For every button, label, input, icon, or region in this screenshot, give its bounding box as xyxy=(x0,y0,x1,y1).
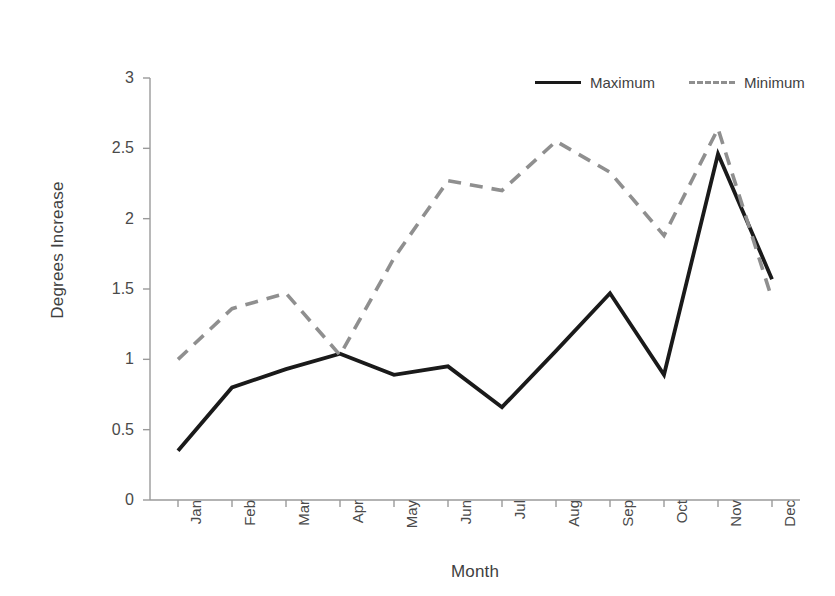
x-tick-label: Jan xyxy=(187,500,204,570)
legend-swatch-dashed-icon xyxy=(689,81,735,84)
x-tick-label: Apr xyxy=(349,500,366,570)
x-tick-label: May xyxy=(403,500,420,570)
x-tick-label: Dec xyxy=(781,500,798,570)
line-chart: Degrees Increase 32.521.510.50 JanFebMar… xyxy=(0,0,835,596)
x-tick-label: Jul xyxy=(511,500,528,570)
x-tick-label: Nov xyxy=(727,500,744,570)
legend-label: Minimum xyxy=(744,74,805,91)
y-tick-label: 3 xyxy=(88,69,134,87)
x-tick-label: Aug xyxy=(565,500,582,570)
y-tick-label: 0.5 xyxy=(88,421,134,439)
y-axis-tick-labels: 32.521.510.50 xyxy=(88,0,134,596)
legend-swatch-solid-icon xyxy=(535,81,581,84)
x-tick-label: Feb xyxy=(241,500,258,570)
y-tick-label: 2 xyxy=(88,210,134,228)
y-tick-label: 2.5 xyxy=(88,139,134,157)
x-tick-label: Oct xyxy=(673,500,690,570)
y-tick-label: 0 xyxy=(88,491,134,509)
chart-legend: MaximumMinimum xyxy=(535,74,805,91)
x-axis-title: Month xyxy=(150,562,800,582)
x-tick-label: Sep xyxy=(619,500,636,570)
legend-label: Maximum xyxy=(590,74,655,91)
series-line-minimum xyxy=(178,129,772,360)
y-tick-label: 1 xyxy=(88,350,134,368)
data-series xyxy=(178,129,772,451)
y-tick-label: 1.5 xyxy=(88,280,134,298)
legend-entry: Minimum xyxy=(689,74,805,91)
axes xyxy=(143,78,800,507)
x-tick-label: Mar xyxy=(295,500,312,570)
y-axis-title: Degrees Increase xyxy=(48,130,68,370)
legend-entry: Maximum xyxy=(535,74,655,91)
x-tick-label: Jun xyxy=(457,500,474,570)
